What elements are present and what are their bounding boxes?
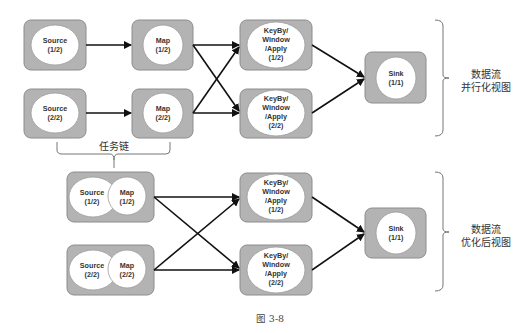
node-index: (1/2) bbox=[269, 205, 284, 214]
parallel-view-label-line1: 数据流 bbox=[471, 68, 501, 80]
node-label: Source bbox=[43, 36, 67, 45]
node-source-1-parallel: Source (1/2) bbox=[24, 20, 86, 70]
node-keyby-2-optimized: KeyBy/ Window /Apply (2/2) bbox=[240, 245, 312, 295]
brace-optimized-view bbox=[435, 172, 449, 291]
node-label-line2: Window bbox=[262, 35, 290, 44]
node-index: (2/2) bbox=[269, 278, 284, 287]
brace-parallel-view bbox=[435, 20, 449, 136]
node-label: Source bbox=[43, 104, 67, 113]
node-label-line1: KeyBy/ bbox=[264, 251, 288, 260]
node-sink-optimized: Sink (1/1) bbox=[365, 208, 426, 258]
node-index: (1/2) bbox=[269, 53, 284, 62]
node-keyby-1-optimized: KeyBy/ Window /Apply (1/2) bbox=[240, 173, 312, 222]
parallel-view-label-line2: 并行化视图 bbox=[461, 81, 511, 93]
dataflow-diagram: Source (1/2) Source (2/2) Map (1/2) Map … bbox=[0, 0, 532, 333]
node-label-line2: Window bbox=[262, 103, 290, 112]
edges-parallel bbox=[86, 45, 364, 113]
node-index: (1/2) bbox=[48, 45, 63, 54]
node-index: (1/2) bbox=[156, 45, 171, 54]
node-map-1-parallel: Map (1/2) bbox=[132, 20, 193, 70]
node-label-line1: KeyBy/ bbox=[264, 178, 288, 187]
node-label-line1: KeyBy/ bbox=[264, 94, 288, 103]
node-source-2-parallel: Source (2/2) bbox=[24, 89, 86, 138]
node-label-line2: Window bbox=[262, 187, 290, 196]
task-chain-label: 任务链 bbox=[99, 140, 129, 152]
node-keyby-1-parallel: KeyBy/ Window /Apply (1/2) bbox=[240, 20, 312, 70]
node-label: Map bbox=[156, 104, 171, 113]
node-keyby-2-parallel: KeyBy/ Window /Apply (2/2) bbox=[240, 89, 312, 138]
node-index: (2/2) bbox=[48, 113, 63, 122]
chain-map-label: Map bbox=[120, 261, 135, 270]
node-label-line3: /Apply bbox=[265, 196, 287, 205]
node-map-2-parallel: Map (2/2) bbox=[132, 89, 193, 138]
node-index: (2/2) bbox=[156, 113, 171, 122]
node-index: (2/2) bbox=[269, 121, 284, 130]
chain-source-index: (2/2) bbox=[85, 270, 100, 279]
chain-source-label: Source bbox=[80, 188, 104, 197]
node-label: Sink bbox=[388, 224, 403, 233]
node-chain-2-optimized: Source (2/2) Map (2/2) bbox=[67, 245, 154, 295]
node-label: Sink bbox=[388, 69, 403, 78]
node-label-line3: /Apply bbox=[265, 112, 287, 121]
chain-source-index: (1/2) bbox=[85, 197, 100, 206]
node-index: (1/1) bbox=[389, 78, 404, 87]
node-label-line3: /Apply bbox=[265, 269, 287, 278]
node-label-line1: KeyBy/ bbox=[264, 26, 288, 35]
chain-map-index: (2/2) bbox=[120, 270, 135, 279]
chain-map-label: Map bbox=[120, 188, 135, 197]
node-chain-1-optimized: Source (1/2) Map (1/2) bbox=[67, 172, 154, 222]
node-label-line3: /Apply bbox=[265, 44, 287, 53]
optimized-view-label-line2: 优化后视图 bbox=[461, 236, 511, 248]
node-index: (1/1) bbox=[389, 233, 404, 242]
node-label-line2: Window bbox=[262, 260, 290, 269]
node-label: Map bbox=[156, 36, 171, 45]
figure-caption: 图 3-8 bbox=[256, 313, 284, 324]
optimized-view-label-line1: 数据流 bbox=[471, 223, 501, 235]
node-sink-parallel: Sink (1/1) bbox=[365, 52, 426, 103]
chain-source-label: Source bbox=[80, 261, 104, 270]
chain-map-index: (1/2) bbox=[120, 197, 135, 206]
